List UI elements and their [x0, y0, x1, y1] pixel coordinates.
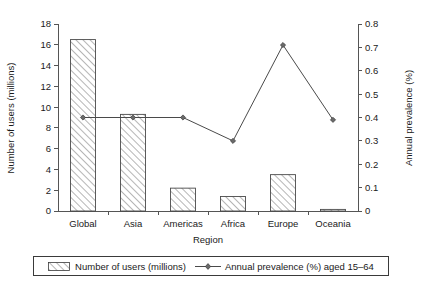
y-axis-right-tick-label: 0.4	[365, 112, 378, 123]
y-axis-left-title: Number of users (millions)	[5, 63, 16, 174]
y-axis-right-tick-label: 0.5	[365, 89, 378, 100]
y-axis-right-tick-label: 0.6	[365, 65, 378, 76]
x-axis-title: Region	[193, 234, 223, 245]
y-axis-left-tick-label: 14	[40, 60, 51, 71]
legend-label-prevalence: Annual prevalence (%) aged 15–64	[225, 261, 374, 272]
x-axis: GlobalAsiaAmericasAfricaEuropeOceania	[58, 211, 358, 229]
prevalence-marker	[330, 117, 335, 122]
y-axis-left: 024681012141618	[40, 18, 58, 216]
x-axis-category-label: Global	[69, 218, 96, 229]
chart-canvas: 024681012141618 00.10.20.30.40.50.60.70.…	[0, 0, 424, 285]
y-axis-left-tick-label: 2	[46, 185, 51, 196]
bar	[121, 114, 146, 211]
prevalence-marker	[180, 115, 185, 120]
legend-item-users: Number of users (millions)	[48, 261, 186, 272]
y-axis-left-tick-label: 12	[40, 81, 51, 92]
x-axis-category-label: Europe	[268, 218, 299, 229]
y-axis-left-tick-label: 4	[46, 164, 51, 175]
bar	[171, 188, 196, 211]
y-axis-left-tick-label: 6	[46, 143, 51, 154]
bar-series	[71, 40, 346, 211]
prevalence-marker	[230, 138, 235, 143]
x-axis-category-label: Asia	[124, 218, 143, 229]
y-axis-right-tick-label: 0.2	[365, 159, 378, 170]
y-axis-left-tick-label: 10	[40, 102, 51, 113]
y-axis-left-tick-label: 8	[46, 122, 51, 133]
x-axis-category-label: Oceania	[315, 218, 351, 229]
bar	[271, 175, 296, 211]
hatched-swatch-icon	[48, 262, 70, 271]
y-axis-right-tick-label: 0.7	[365, 42, 378, 53]
y-axis-right-tick-label: 0.3	[365, 135, 378, 146]
x-axis-category-label: Africa	[221, 218, 246, 229]
bar	[71, 40, 96, 211]
bar	[321, 209, 346, 211]
y-axis-left-tick-label: 16	[40, 39, 51, 50]
y-axis-right-title: Annual prevalence (%)	[403, 70, 414, 166]
line-series	[80, 42, 335, 143]
y-axis-left-tick-label: 0	[46, 205, 51, 216]
line-diamond-marker-icon	[195, 262, 221, 271]
legend-item-prevalence: Annual prevalence (%) aged 15–64	[195, 261, 374, 272]
bar	[221, 196, 246, 211]
chart-legend: Number of users (millions) Annual preval…	[33, 256, 389, 276]
y-axis-right-tick-label: 0	[365, 205, 370, 216]
y-axis-left-tick-label: 18	[40, 18, 51, 29]
prevalence-marker	[280, 42, 285, 47]
y-axis-right-tick-label: 0.8	[365, 18, 378, 29]
x-axis-category-label: Americas	[163, 218, 203, 229]
y-axis-right-tick-label: 0.1	[365, 182, 378, 193]
y-axis-right: 00.10.20.30.40.50.60.70.8	[358, 18, 378, 216]
chart-figure: 024681012141618 00.10.20.30.40.50.60.70.…	[0, 0, 424, 285]
legend-label-users: Number of users (millions)	[75, 261, 186, 272]
